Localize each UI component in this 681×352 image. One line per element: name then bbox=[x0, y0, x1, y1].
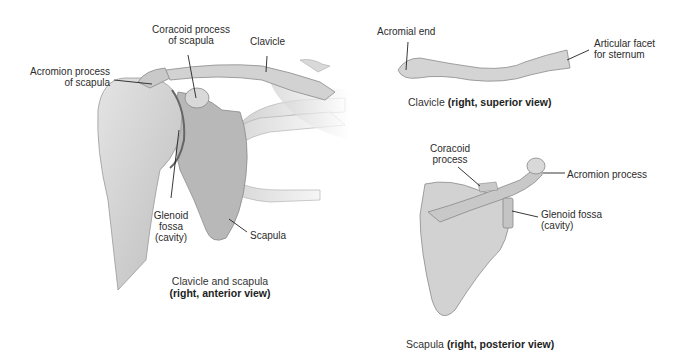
label-line: Coracoid bbox=[425, 143, 475, 154]
caption-view: (right, anterior view) bbox=[170, 287, 271, 299]
caption-title: Clavicle bbox=[408, 96, 448, 108]
label-line: of scapula bbox=[140, 35, 242, 46]
caption-anterior-view: Clavicle and scapula (right, anterior vi… bbox=[150, 275, 290, 299]
label-clavicle: Clavicle bbox=[250, 36, 285, 47]
label-acromion-process: Acromion process of scapula bbox=[10, 66, 110, 88]
label-line: of scapula bbox=[10, 77, 110, 88]
label-coracoid-process-posterior: Coracoid process bbox=[425, 143, 475, 165]
label-scapula: Scapula bbox=[250, 230, 286, 241]
caption-title: Clavicle and scapula bbox=[150, 275, 290, 287]
label-acromion-process-posterior: Acromion process bbox=[567, 169, 647, 180]
label-glenoid-fossa-posterior: Glenoid fossa (cavity) bbox=[541, 209, 602, 231]
label-line: for sternum bbox=[594, 49, 655, 60]
label-line: Glenoid fossa bbox=[541, 209, 602, 220]
label-line: process bbox=[425, 154, 475, 165]
label-line: (cavity) bbox=[541, 220, 602, 231]
label-line: Articular facet bbox=[594, 38, 655, 49]
label-line: Glenoid bbox=[146, 210, 196, 221]
caption-view: (right, superior view) bbox=[448, 96, 552, 108]
label-line: (cavity) bbox=[146, 232, 196, 243]
label-glenoid-fossa: Glenoid fossa (cavity) bbox=[146, 210, 196, 243]
anterior-shoulder-drawing bbox=[98, 60, 350, 291]
label-acromial-end: Acromial end bbox=[377, 26, 435, 37]
label-line: Acromion process bbox=[10, 66, 110, 77]
caption-view: (right, posterior view) bbox=[447, 338, 554, 350]
caption-posterior-view: Scapula (right, posterior view) bbox=[406, 338, 554, 350]
label-line: Coracoid process bbox=[140, 24, 242, 35]
clavicle-superior-drawing bbox=[398, 50, 570, 81]
scapula-posterior-drawing bbox=[420, 158, 545, 316]
caption-title: Scapula bbox=[406, 338, 447, 350]
label-coracoid-process: Coracoid process of scapula bbox=[140, 24, 242, 46]
caption-superior-view: Clavicle (right, superior view) bbox=[408, 96, 552, 108]
label-articular-facet: Articular facet for sternum bbox=[594, 38, 655, 60]
label-line: fossa bbox=[146, 221, 196, 232]
